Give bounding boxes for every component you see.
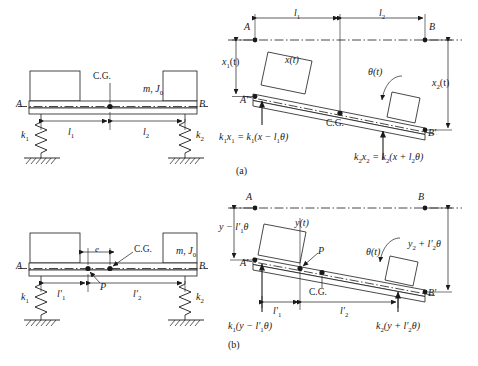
label-l1p-b-left: l′1 — [57, 289, 65, 302]
label-A-a-right: A — [244, 22, 250, 32]
label-l2p-b-right: l′2 — [340, 306, 348, 319]
label-l1-a-left: l1 — [68, 127, 74, 140]
ground2-hatch-a — [170, 158, 200, 164]
cg-dot-b-right — [319, 270, 324, 275]
bar-bottom-a — [29, 108, 197, 114]
label-cg-a-left: C.G. — [93, 72, 111, 82]
block-right-a — [163, 71, 197, 101]
label-B-b-right: B — [418, 192, 424, 202]
label-force-right-b: k2(y + l′2θ) — [376, 321, 420, 334]
label-force-left-a: k1x1 = k1(x − l1θ) — [219, 132, 288, 145]
label-k2-b: k2 — [196, 292, 204, 305]
label-P-b-right: P — [318, 246, 324, 256]
ground1-hatch-b — [26, 320, 56, 326]
label-Aprime-b: A′ — [240, 258, 248, 268]
label-x1t-a: x1(t) — [222, 57, 239, 70]
bar-top-a — [29, 101, 197, 108]
label-disp-left-b: y − l′1θ — [219, 222, 248, 235]
label-l2-a-right: l2 — [379, 8, 385, 21]
label-l2p-b-left: l′2 — [133, 289, 141, 302]
ground1-hatch-a — [26, 158, 56, 164]
label-B-a-left: B — [199, 99, 205, 109]
label-k1-b: k1 — [21, 292, 29, 305]
label-disp-right-b: y2 + l′2θ — [408, 239, 441, 252]
label-mass-inertia-b: m, J0 — [176, 246, 196, 259]
figure-root: A B C.G. m, J0 k1 k2 l1 l2 A B l1 l2 x1(… — [0, 0, 478, 366]
cg-dot-a — [107, 104, 112, 109]
caption-b: (b) — [228, 340, 240, 350]
label-xt-a: x(t) — [285, 55, 299, 65]
label-l2-a-left: l2 — [143, 127, 149, 140]
label-force-left-b: k1(y − l′1θ) — [228, 321, 272, 334]
cg-dot-b — [107, 266, 112, 271]
label-A-b-right: A — [246, 192, 252, 202]
tiltblock-right-b — [385, 256, 418, 286]
label-cg-b-left: C.G. — [134, 245, 152, 255]
label-Aprime-a: A′ — [240, 95, 248, 105]
bar-top-b — [29, 263, 197, 270]
label-k1-a: k1 — [21, 130, 29, 143]
figure-svg — [0, 0, 478, 366]
panel-b-right-diagram — [228, 206, 462, 312]
label-force-right-a: k2x2 = k2(x + l2θ) — [354, 152, 423, 165]
label-B-b-left: B — [199, 261, 205, 271]
label-Bprime-a: B′ — [428, 128, 436, 138]
label-Bprime-b: B′ — [428, 288, 436, 298]
ground2-hatch-b — [170, 320, 200, 326]
label-e-b: e — [95, 245, 99, 254]
cg-dot-a-right — [337, 110, 342, 115]
label-B-a-right: B — [429, 22, 435, 32]
label-cg-a-right: C.G. — [326, 119, 344, 129]
block-left-b — [30, 233, 80, 263]
label-A-b-left: A — [16, 261, 22, 271]
label-P-b-left: P — [100, 282, 106, 292]
label-theta-a: θ(t) — [368, 67, 382, 77]
p-dot-b — [85, 266, 90, 271]
label-x2t-a: x2(t) — [432, 78, 449, 91]
label-theta-b: θ(t) — [366, 247, 380, 257]
panel-a-left-diagram — [18, 71, 208, 164]
label-yt-b: y(t) — [295, 218, 309, 228]
label-k2-a: k2 — [196, 130, 204, 143]
label-l1p-b-right: l′1 — [273, 306, 281, 319]
tiltblock-right-a — [387, 92, 420, 123]
label-l1-a-right: l1 — [294, 8, 300, 21]
tiltblock-left-b — [258, 224, 306, 263]
bar-bottom-b — [29, 270, 197, 276]
label-A-a-left: A — [16, 99, 22, 109]
label-cg-b-right: C.G. — [309, 288, 327, 298]
p-leader-b-right — [303, 253, 318, 266]
block-left-a — [30, 71, 80, 101]
caption-a: (a) — [236, 166, 247, 176]
label-mass-inertia-a: m, J0 — [143, 84, 163, 97]
